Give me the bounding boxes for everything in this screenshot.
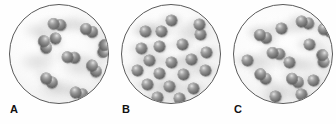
single-atom	[270, 91, 281, 102]
atom-sphere	[177, 39, 188, 50]
panel-b: B	[112, 0, 224, 124]
single-atom	[156, 26, 167, 37]
diatomic-molecule	[38, 71, 59, 90]
single-atom	[296, 89, 307, 100]
panel-a: A	[0, 0, 112, 124]
atom-sphere	[194, 19, 205, 30]
atom-sphere	[270, 91, 281, 102]
diatomic-molecule	[97, 39, 109, 59]
vessel-circle-b	[121, 4, 221, 104]
atom-sphere	[186, 54, 197, 65]
diatomic-molecule	[253, 67, 274, 87]
atom-sphere	[152, 92, 163, 103]
panel-label-a: A	[10, 103, 18, 115]
atom-sphere	[132, 65, 143, 76]
single-atom	[154, 68, 165, 79]
single-atom	[194, 19, 205, 30]
single-atom	[142, 79, 153, 90]
atom-sphere	[188, 83, 199, 94]
single-atom	[166, 57, 177, 68]
single-atom	[186, 54, 197, 65]
atom-sphere	[142, 79, 153, 90]
single-atom	[132, 65, 143, 76]
vessel-circle-c	[233, 4, 333, 104]
atom-sphere	[308, 75, 319, 86]
single-atom	[178, 69, 189, 80]
single-atom	[188, 83, 199, 94]
diatomic-molecule	[317, 22, 333, 38]
diatomic-molecule	[316, 49, 330, 69]
single-atom	[304, 39, 315, 50]
single-atom	[308, 75, 319, 86]
atom-sphere	[296, 89, 307, 100]
atom-sphere	[276, 23, 287, 34]
atom-sphere	[156, 26, 167, 37]
atom-sphere	[154, 41, 165, 52]
single-atom	[200, 65, 211, 76]
atom-sphere	[166, 57, 177, 68]
single-atom	[276, 23, 287, 34]
vessel-circle-a	[9, 4, 109, 104]
diatomic-molecule	[62, 51, 81, 64]
atom-sphere	[304, 39, 315, 50]
atom-sphere	[154, 68, 165, 79]
panel-label-b: B	[122, 103, 130, 115]
single-atom	[284, 57, 295, 68]
particle-diagram-figure: A B C	[0, 0, 336, 124]
diatomic-molecule	[69, 86, 89, 101]
single-atom	[164, 81, 175, 92]
single-atom	[177, 39, 188, 50]
single-atom	[152, 92, 163, 103]
single-atom	[174, 93, 185, 104]
single-atom	[48, 31, 63, 46]
panel-c: C	[224, 0, 336, 124]
atom-sphere	[178, 69, 189, 80]
diatomic-molecule	[79, 22, 100, 40]
atom-sphere	[174, 93, 185, 104]
atom-sphere	[284, 57, 295, 68]
atom-sphere	[164, 81, 175, 92]
atom-sphere	[200, 65, 211, 76]
panel-label-c: C	[234, 103, 242, 115]
single-atom	[154, 41, 165, 52]
